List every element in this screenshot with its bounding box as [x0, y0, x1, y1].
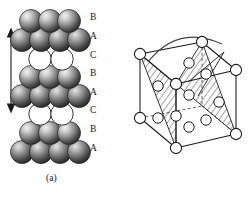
corner-atom-front-bottom — [170, 142, 181, 153]
corner-atom-back-top-right — [196, 36, 207, 47]
panel-b-drawing — [126, 0, 252, 198]
corner-atom-right-bottom — [230, 128, 241, 139]
sphere-layer-b-middle — [20, 66, 81, 89]
panel-b-fcc-unit-cell: (111) (b) — [126, 0, 252, 198]
panel-a-close-packed-stacking: B A C B A C B A (a) — [0, 0, 126, 198]
layer-label-7: A — [90, 143, 97, 153]
corner-atom-center-top — [170, 78, 181, 89]
layer-label-5: C — [90, 105, 97, 115]
panel-a-caption: (a) — [46, 173, 57, 183]
left-111-plane — [140, 54, 176, 148]
corner-atom-back-bottom-left — [134, 112, 145, 123]
figure-root: B A C B A C B A (a) — [0, 0, 252, 198]
panel-a-drawing — [0, 0, 126, 198]
sphere-layer-b-top — [20, 10, 81, 33]
layer-label-0: B — [90, 12, 97, 22]
layer-label-3: B — [90, 68, 97, 78]
layer-label-4: A — [90, 87, 97, 97]
corner-atom-right-top — [230, 64, 241, 75]
layer-label-1: A — [90, 31, 97, 41]
layer-label-6: B — [90, 124, 97, 134]
corner-atom-back-top-left — [134, 48, 145, 59]
layer-label-2: C — [90, 50, 97, 60]
sphere-layer-b-lower — [20, 122, 81, 145]
